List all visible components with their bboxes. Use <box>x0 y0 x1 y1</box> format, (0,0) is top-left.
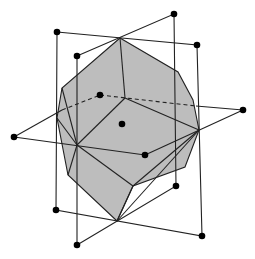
polyhedron-solid <box>57 38 199 221</box>
vertex-dot <box>173 183 180 190</box>
vertex-dot <box>240 107 247 114</box>
diagram-canvas <box>0 0 255 259</box>
center-dot <box>119 121 126 128</box>
polyhedron-outline <box>57 38 199 221</box>
horizontal-rect-edge <box>196 106 243 110</box>
vertex-dot <box>142 152 149 159</box>
vertex-dot <box>97 92 104 99</box>
horizontal-rect-edge <box>14 110 62 137</box>
vertex-dot <box>11 134 18 141</box>
vertex-dot <box>199 233 206 240</box>
vertex-dot <box>54 29 61 36</box>
vertex-dot <box>74 53 81 60</box>
polyhedron-diagram <box>0 0 255 259</box>
vertex-dot <box>194 42 201 49</box>
vertex-dot <box>171 11 178 18</box>
vertex-dot <box>53 207 60 214</box>
vertex-dot <box>74 242 81 249</box>
